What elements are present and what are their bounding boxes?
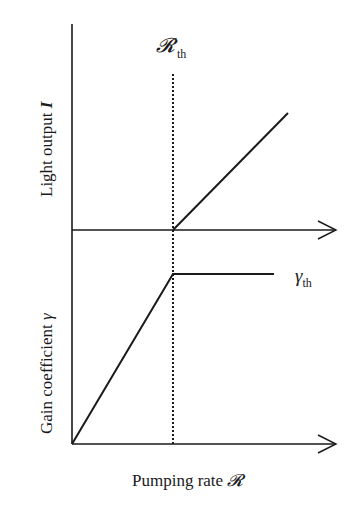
upper-x-axis xyxy=(72,221,336,239)
lower-y-axis-label: Gain coefficient γ xyxy=(37,312,56,434)
x-axis-label: Pumping rate 𝓡 xyxy=(132,471,246,490)
light-output-curve xyxy=(173,113,288,230)
gain-threshold-label: γth xyxy=(295,265,312,290)
lower-x-axis xyxy=(72,435,336,453)
upper-y-axis-label: Light output I xyxy=(37,100,56,197)
laser-threshold-diagram: 𝓡th γth Light output I Gain coefficient … xyxy=(0,0,356,511)
threshold-marker-label: 𝓡th xyxy=(156,34,186,61)
